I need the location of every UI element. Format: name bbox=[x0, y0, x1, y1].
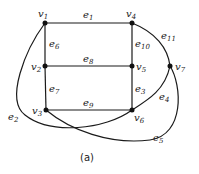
vertex-v7 bbox=[168, 64, 173, 69]
vertex-v2 bbox=[43, 64, 48, 69]
label-e7: e7 bbox=[49, 83, 60, 96]
edge-e5 bbox=[46, 66, 178, 141]
label-e3: e3 bbox=[135, 83, 146, 96]
vertex-v5 bbox=[130, 64, 135, 69]
figure-caption: (a) bbox=[80, 152, 94, 163]
label-e10: e10 bbox=[135, 38, 150, 51]
graph-diagram: v1 v2 v3 v4 v5 v6 v7 e1 e2 e3 e4 e5 e6 e… bbox=[0, 0, 199, 174]
vertex-v4 bbox=[130, 21, 135, 26]
label-v4: v4 bbox=[126, 8, 136, 21]
label-e9: e9 bbox=[83, 97, 94, 110]
label-v2: v2 bbox=[31, 61, 42, 74]
label-e8: e8 bbox=[83, 53, 94, 66]
label-e1: e1 bbox=[83, 9, 93, 22]
vertex-v3 bbox=[44, 108, 49, 113]
label-e2: e2 bbox=[8, 111, 19, 124]
label-e5: e5 bbox=[153, 132, 164, 145]
label-v1: v1 bbox=[38, 8, 48, 21]
label-v3: v3 bbox=[32, 105, 43, 118]
label-v5: v5 bbox=[136, 61, 147, 74]
label-e6: e6 bbox=[49, 38, 60, 51]
label-v6: v6 bbox=[134, 112, 145, 125]
label-e11: e11 bbox=[161, 30, 176, 43]
edge-e7 bbox=[45, 66, 46, 110]
label-v7: v7 bbox=[175, 61, 186, 74]
vertex-v1 bbox=[43, 21, 48, 26]
label-e4: e4 bbox=[159, 91, 169, 104]
